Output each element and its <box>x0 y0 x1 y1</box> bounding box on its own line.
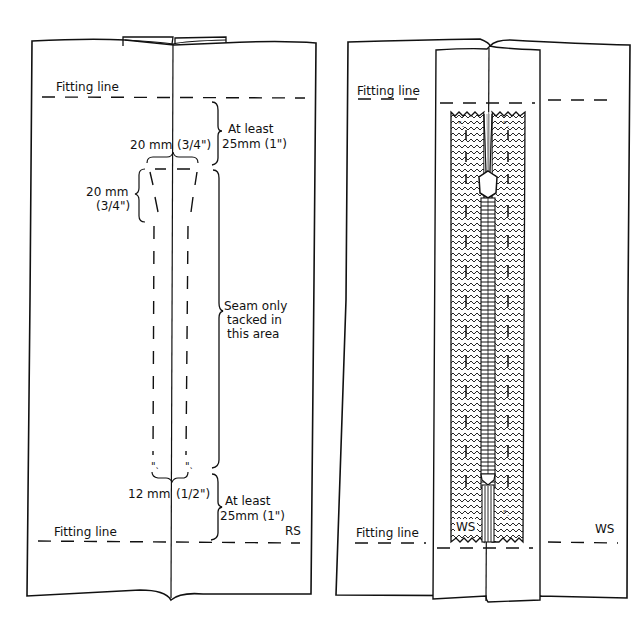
bartack-mark-right: "˴ <box>185 461 193 472</box>
zip-tape-label-ws: WS <box>456 520 475 534</box>
svg-text:"˴: "˴ <box>503 510 510 519</box>
fitting-line-top <box>42 97 305 98</box>
zip: "˴ "˴ "˴ WS <box>451 112 525 542</box>
zip-insertion-diagram: Fitting line At least 25mm (1") 20 mm (3… <box>0 0 644 635</box>
brace-taper <box>135 169 145 222</box>
fitting-line-label-bottom-right: Fitting line <box>356 526 419 540</box>
bottom-gap-label-2: 25mm (1") <box>220 509 285 523</box>
brace-width-bottom <box>152 472 188 482</box>
left-panel: Fitting line At least 25mm (1") 20 mm (3… <box>27 37 316 600</box>
bartack-mark-left: "˴ <box>151 461 159 472</box>
side-label-ws: WS <box>595 522 614 536</box>
seam-label-3: this area <box>227 327 279 341</box>
right-panel: Fitting line <box>336 39 630 602</box>
tack-line-left <box>153 226 154 455</box>
seam-label-2: tacked in <box>227 313 282 327</box>
fitting-line-label-top: Fitting line <box>56 80 119 94</box>
width-top-in: (3/4") <box>177 138 211 152</box>
side-label-rs: RS <box>285 524 301 538</box>
taper-mm: 20 mm <box>86 185 128 199</box>
fitting-line-bottom <box>38 541 300 543</box>
top-gap-label-2: 25mm (1") <box>222 137 287 151</box>
width-top-mm: 20 mm <box>130 138 172 152</box>
fitting-line-label-bottom: Fitting line <box>54 525 117 539</box>
bottom-gap-label-1: At least <box>225 494 271 508</box>
svg-text:"˴: "˴ <box>458 121 465 130</box>
taper-in: (3/4") <box>96 199 130 213</box>
brace-bottom-gap <box>211 474 222 540</box>
fitting-line-label-top-right: Fitting line <box>357 84 420 98</box>
tack-line-right <box>186 226 188 455</box>
width-bottom-mm: 12 mm <box>128 487 170 501</box>
brace-seam-area <box>212 170 223 468</box>
zip-slider <box>479 171 497 198</box>
brace-top-gap <box>212 102 222 165</box>
svg-text:"˴: "˴ <box>503 121 510 130</box>
width-bottom-in: (1/2") <box>176 487 210 501</box>
center-seam <box>171 44 173 598</box>
top-gap-label-1: At least <box>228 122 274 136</box>
seam-label-1: Seam only <box>224 299 287 313</box>
